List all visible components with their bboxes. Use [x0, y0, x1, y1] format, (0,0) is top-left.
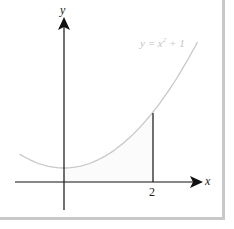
equation-label: y = x2 + 1 [140, 36, 185, 49]
parabola-curve [20, 42, 198, 168]
shaded-area [64, 112, 153, 182]
x-axis-label: x [205, 174, 210, 189]
x-tick-2: 2 [149, 185, 155, 200]
plot-area [0, 0, 234, 229]
y-axis-label: y [60, 3, 65, 18]
